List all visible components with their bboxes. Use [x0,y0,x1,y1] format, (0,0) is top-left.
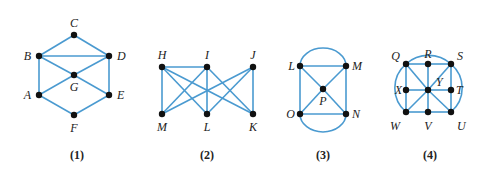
vertex-H [159,64,165,70]
caption-graph-2: (2) [200,148,214,162]
vertex-L [204,111,210,117]
vertex-A [36,92,42,98]
vertex-label-R: R [423,47,432,61]
vertex-label-Q: Q [391,49,400,63]
vertex-label-A: A [23,88,32,102]
vertex-Q [403,61,409,67]
vertex-T [448,87,454,93]
vertex-K [250,111,256,117]
vertex-label-V: V [424,119,433,133]
vertex-label-L: L [287,59,295,73]
vertex-S [448,61,454,67]
vertex-I [204,64,210,70]
vertex-label-J: J [250,48,256,62]
vertex-J [250,64,256,70]
vertex-label-L: L [203,120,211,134]
vertex-V [425,109,431,115]
edge-B-G [39,56,74,75]
vertex-label-U: U [457,119,467,133]
edge-M-P [323,66,346,89]
edge-A-F [39,95,74,115]
graph-1: ABCDEFG [23,16,126,135]
vertex-N [343,111,349,117]
vertex-label-D: D [116,49,126,63]
graph-2: HIJMLK [156,48,258,134]
vertex-P [320,86,326,92]
edge-Y-W [406,90,428,112]
edge-L-P [300,66,323,89]
vertex-label-X: X [394,83,403,97]
vertex-label-G: G [70,80,79,94]
vertex-label-S: S [457,49,463,63]
edge-E-F [74,95,109,115]
vertex-G [71,72,77,78]
vertex-C [71,32,77,38]
arc-edge-L-M [300,48,346,66]
vertex-W [403,109,409,115]
vertex-L [297,63,303,69]
edge-Y-U [428,90,451,112]
edge-D-G [74,56,109,75]
graph-figure: ABCDEFG HIJMLK LMPON QRSXYTWVU (1) (2) (… [0,0,488,173]
vertex-M [159,111,165,117]
arc-edge-O-N [300,114,346,132]
vertex-label-K: K [248,120,258,134]
vertex-label-H: H [157,48,168,62]
vertex-U [448,109,454,115]
vertex-M [343,63,349,69]
caption-graph-4: (4) [423,148,437,162]
vertex-label-M: M [351,59,363,73]
vertex-label-O: O [286,107,295,121]
vertex-label-F: F [69,121,78,135]
vertex-label-E: E [116,88,125,102]
vertex-label-B: B [24,49,32,63]
vertex-X [403,87,409,93]
vertex-label-M: M [156,120,168,134]
vertex-label-C: C [70,16,79,30]
vertex-Y [425,87,431,93]
vertex-D [106,53,112,59]
vertex-label-N: N [351,107,361,121]
vertex-B [36,53,42,59]
caption-graph-1: (1) [70,148,84,162]
vertex-R [425,61,431,67]
vertex-label-I: I [204,48,210,62]
edge-C-D [74,35,109,56]
vertex-O [297,111,303,117]
vertex-label-P: P [318,94,327,108]
vertex-label-W: W [390,119,401,133]
edge-C-B [39,35,74,56]
vertex-E [106,92,112,98]
edge-G-E [74,75,109,95]
caption-graph-3: (3) [316,148,330,162]
vertex-label-Y: Y [436,75,444,89]
graph-3: LMPON [286,48,363,132]
vertex-F [71,112,77,118]
graph-4: QRSXYTWVU [390,47,467,133]
edge-Q-Y [406,64,428,90]
